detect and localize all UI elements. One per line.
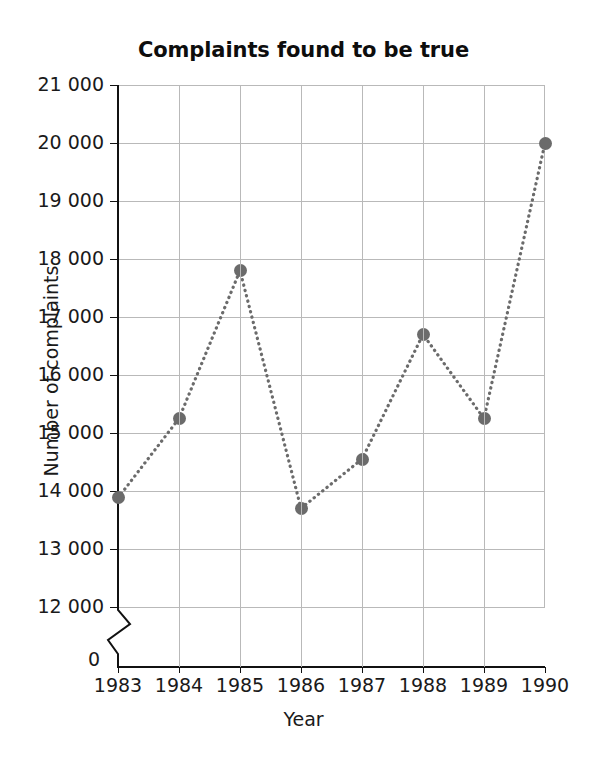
plot-area-below-break (118, 607, 545, 667)
y-axis-origin-label: 0 (88, 648, 100, 670)
y-axis-tick-label: 17 000 (8, 307, 104, 326)
gridline-horizontal (118, 259, 545, 260)
axis-break-zigzag (100, 600, 140, 674)
gridline-vertical (240, 85, 241, 667)
data-point-marker (539, 137, 552, 150)
gridline-horizontal (118, 549, 545, 550)
gridline-vertical (423, 85, 424, 667)
x-axis-line (117, 666, 545, 668)
x-axis-tick-label: 1983 (88, 674, 148, 696)
plot-top-border (118, 85, 545, 86)
x-axis-tick-label: 1990 (515, 674, 575, 696)
gridline-vertical (484, 85, 485, 667)
y-axis-tick-label: 19 000 (8, 191, 104, 210)
gridline-horizontal (118, 201, 545, 202)
y-axis-tick-label: 21 000 (8, 75, 104, 94)
gridline-horizontal (118, 433, 545, 434)
x-axis-tick (545, 667, 546, 673)
plot-right-border (544, 85, 545, 607)
chart-page: Complaints found to be true Number of co… (0, 0, 607, 767)
y-axis-tick-label: 14 000 (8, 481, 104, 500)
gridline-horizontal (118, 491, 545, 492)
gridline-vertical (179, 85, 180, 667)
x-axis-tick-label: 1984 (149, 674, 209, 696)
y-axis-line (117, 85, 119, 607)
y-axis-tick-label: 20 000 (8, 133, 104, 152)
plot-area (118, 85, 545, 607)
x-axis-tick-label: 1985 (210, 674, 270, 696)
gridline-horizontal (118, 143, 545, 144)
x-axis-tick-label: 1987 (332, 674, 392, 696)
gridline-horizontal (118, 317, 545, 318)
y-axis-tick-label: 15 000 (8, 423, 104, 442)
x-axis-tick-label: 1986 (271, 674, 331, 696)
y-axis-tick-label: 16 000 (8, 365, 104, 384)
gridline-horizontal (118, 375, 545, 376)
gridline-vertical (301, 85, 302, 667)
x-axis-tick-label: 1989 (454, 674, 514, 696)
gridline-vertical (362, 85, 363, 667)
y-axis-tick-label: 13 000 (8, 539, 104, 558)
data-point-marker (112, 491, 125, 504)
x-axis-tick-label: 1988 (393, 674, 453, 696)
y-axis-tick-label: 18 000 (8, 249, 104, 268)
y-axis-tick-label: 12 000 (8, 597, 104, 616)
